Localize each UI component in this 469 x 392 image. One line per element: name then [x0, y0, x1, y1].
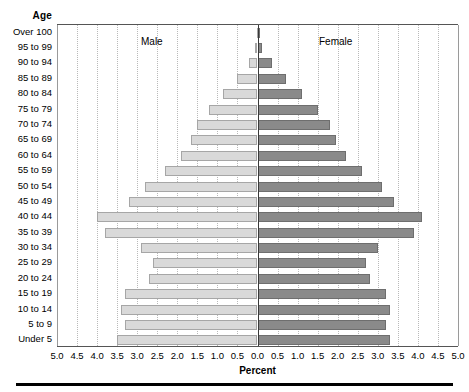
- age-group-label: 60 to 64: [0, 150, 52, 160]
- male-bar: [165, 166, 257, 176]
- age-group-label: Under 5: [0, 334, 52, 344]
- female-bar: [258, 258, 366, 268]
- female-bar: [258, 166, 362, 176]
- x-tick-label: 4.5: [431, 350, 444, 361]
- male-bar: [149, 274, 257, 284]
- x-tick-label: 5.0: [451, 350, 464, 361]
- male-bar: [153, 258, 257, 268]
- male-bar: [129, 197, 257, 207]
- zero-axis-line: [258, 25, 259, 346]
- age-group-label: 75 to 79: [0, 104, 52, 114]
- x-tick-label: 1.0: [211, 350, 224, 361]
- age-group-label: 10 to 14: [0, 304, 52, 314]
- x-axis-tick-labels: 5.04.54.03.53.02.52.01.51.00.50.00.51.01…: [57, 350, 458, 364]
- x-tick-label: 2.0: [171, 350, 184, 361]
- age-group-label: 25 to 29: [0, 257, 52, 267]
- female-bar: [258, 320, 386, 330]
- male-bar: [237, 74, 257, 84]
- male-bar: [105, 228, 257, 238]
- x-tick-label: 4.5: [70, 350, 83, 361]
- x-tick-label: 3.5: [111, 350, 124, 361]
- age-group-label: 40 to 44: [0, 211, 52, 221]
- x-tick-label: 3.0: [131, 350, 144, 361]
- female-bar: [258, 105, 318, 115]
- x-tick-label: 4.0: [90, 350, 103, 361]
- female-bar: [258, 305, 390, 315]
- x-tick-label: 1.0: [291, 350, 304, 361]
- female-bar: [258, 197, 394, 207]
- age-group-label: Over 100: [0, 27, 52, 37]
- male-bar: [145, 182, 257, 192]
- female-series-annotation: Female: [319, 36, 352, 47]
- male-bar: [125, 289, 257, 299]
- female-bar: [258, 212, 422, 222]
- age-group-label: 55 to 59: [0, 165, 52, 175]
- age-group-label: 65 to 69: [0, 134, 52, 144]
- x-tick-label: 1.5: [311, 350, 324, 361]
- age-group-label: 90 to 94: [0, 57, 52, 67]
- age-group-label: 15 to 19: [0, 288, 52, 298]
- population-pyramid-chart: Age Over 10095 to 9990 to 9485 to 8980 t…: [0, 0, 469, 392]
- x-tick-label: 3.0: [371, 350, 384, 361]
- female-bar: [258, 74, 286, 84]
- female-bar: [258, 289, 386, 299]
- age-group-label: 95 to 99: [0, 42, 52, 52]
- x-tick-label: 2.0: [331, 350, 344, 361]
- x-axis-title: Percent: [57, 365, 458, 376]
- male-bar: [121, 305, 257, 315]
- female-bar: [258, 89, 302, 99]
- x-tick-label: 4.0: [411, 350, 424, 361]
- x-tick-label: 0.0: [251, 350, 264, 361]
- female-bar: [258, 243, 378, 253]
- female-bar: [258, 120, 330, 130]
- male-bar: [125, 320, 257, 330]
- female-bar: [258, 135, 336, 145]
- age-group-label-column: Over 10095 to 9990 to 9485 to 8980 to 84…: [0, 24, 52, 347]
- x-tick-label: 3.5: [391, 350, 404, 361]
- age-group-label: 20 to 24: [0, 273, 52, 283]
- x-tick-label: 2.5: [151, 350, 164, 361]
- age-group-label: 30 to 34: [0, 242, 52, 252]
- male-bar: [223, 89, 257, 99]
- female-bar: [258, 182, 382, 192]
- male-bar: [197, 120, 257, 130]
- male-bar: [117, 335, 257, 345]
- age-group-label: 70 to 74: [0, 119, 52, 129]
- age-group-label: 5 to 9: [0, 319, 52, 329]
- x-tick-label: 0.5: [271, 350, 284, 361]
- age-group-label: 45 to 49: [0, 196, 52, 206]
- x-tick-label: 1.5: [191, 350, 204, 361]
- female-bar: [258, 335, 390, 345]
- female-bar: [258, 274, 370, 284]
- male-bar: [209, 105, 257, 115]
- male-bar: [97, 212, 257, 222]
- x-tick-label: 5.0: [50, 350, 63, 361]
- gridline: [458, 25, 459, 346]
- male-bar: [181, 151, 257, 161]
- female-bar: [258, 58, 272, 68]
- age-group-label: 85 to 89: [0, 73, 52, 83]
- x-tick-label: 0.5: [231, 350, 244, 361]
- plot-area: Male Female: [57, 24, 458, 347]
- male-bar: [191, 135, 257, 145]
- age-group-label: 80 to 84: [0, 88, 52, 98]
- male-bar: [249, 58, 257, 68]
- age-group-label: 35 to 39: [0, 227, 52, 237]
- age-group-label: 50 to 54: [0, 181, 52, 191]
- male-series-annotation: Male: [141, 36, 163, 47]
- male-bar: [141, 243, 257, 253]
- female-bar: [258, 228, 414, 238]
- footer-divider: [16, 383, 453, 386]
- y-axis-title: Age: [0, 10, 52, 21]
- x-tick-label: 2.5: [351, 350, 364, 361]
- female-bar: [258, 151, 346, 161]
